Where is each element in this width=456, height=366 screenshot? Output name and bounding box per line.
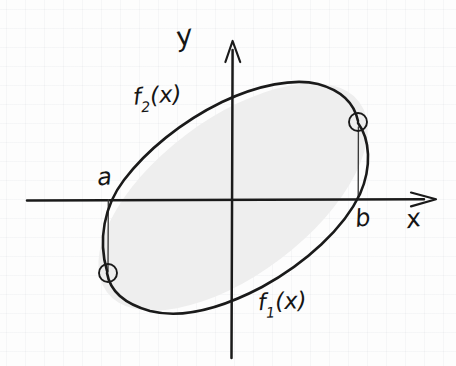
lower-curve-label-subscript: 1 — [266, 305, 276, 321]
lower-curve-label-f1: f1(x) — [257, 289, 307, 318]
upper-curve-label-argument: (x) — [149, 80, 182, 108]
sketch-drawing — [0, 0, 456, 366]
right-bound-label-b: b — [353, 205, 371, 231]
lower-curve-label-f: f — [257, 289, 266, 315]
left-bound-label-a: a — [96, 164, 113, 189]
upper-curve-label-f: f — [132, 83, 142, 110]
upper-curve-label-subscript: 2 — [141, 99, 151, 116]
x-axis-line — [27, 199, 424, 200]
figure-canvas: y x a b f2(x) f1(x) — [0, 0, 456, 366]
lower-curve-label-argument: (x) — [274, 287, 307, 315]
upper-curve-label-f2: f2(x) — [132, 82, 183, 112]
